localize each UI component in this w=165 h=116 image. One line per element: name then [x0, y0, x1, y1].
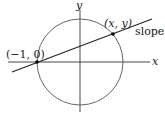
unit-circle-diagram: x y (−1, 0) (x, y) slope t: [0, 0, 165, 116]
point-label-neg1-0: (−1, 0): [6, 48, 45, 61]
x-axis-label: x: [152, 55, 159, 68]
point-x-y: [111, 32, 115, 36]
slope-label: slope t: [135, 25, 165, 38]
point-label-x-y: (x, y): [104, 17, 132, 30]
y-axis-label: y: [75, 0, 83, 12]
